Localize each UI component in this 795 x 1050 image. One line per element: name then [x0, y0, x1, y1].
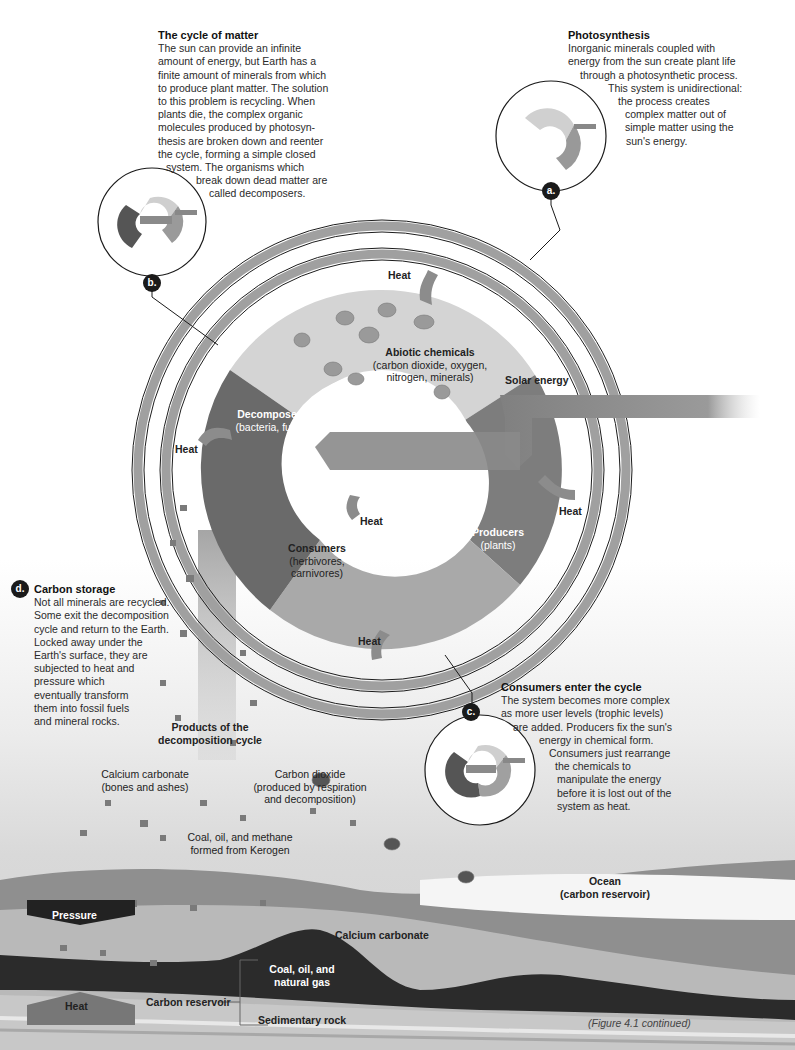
- label-line: Coal, oil, and: [269, 963, 334, 975]
- label-sub: (herbivores,: [289, 555, 344, 567]
- callout-line: finite amount of minerals from which: [158, 69, 358, 82]
- label-line: Coal, oil, and methane: [187, 831, 292, 843]
- label-sub: (plants): [480, 539, 515, 551]
- label-coal-oil-methane: Coal, oil, and methane formed from Kerog…: [175, 831, 305, 856]
- label-products-decomposition: Products of the decomposition cycle: [150, 721, 270, 746]
- label-decomposers: Decomposers (bacteria, fungi): [222, 408, 322, 433]
- label-line: decomposition cycle: [158, 734, 262, 746]
- badge-b: b.: [143, 274, 161, 292]
- callout-title: Photosynthesis: [568, 29, 778, 42]
- label-title: Consumers: [288, 542, 346, 554]
- label-line: Products of the: [171, 721, 248, 733]
- label-line: (bones and ashes): [102, 781, 189, 793]
- callout-title: Consumers enter the cycle: [501, 681, 701, 694]
- label-heat-right: Heat: [559, 505, 582, 518]
- label-solar-energy: Solar energy: [505, 374, 595, 387]
- label-line: natural gas: [274, 976, 330, 988]
- label-ocean: Ocean (carbon reservoir): [545, 875, 665, 900]
- callout-line: Locked away under the: [34, 636, 214, 649]
- callout-line: Earth's surface, they are: [34, 649, 214, 662]
- label-sub: (carbon dioxide, oxygen,: [373, 359, 487, 371]
- callout-line: Not all minerals are recycled.: [34, 596, 214, 609]
- callout-line: subjected to heat and: [34, 662, 214, 675]
- label-line: (carbon reservoir): [560, 888, 650, 900]
- label-calcium-carbonate-layer: Calcium carbonate: [335, 929, 429, 942]
- callout-line: The system becomes more complex: [501, 694, 701, 707]
- callout-line: break down dead matter are: [158, 174, 358, 187]
- label-title: Abiotic chemicals: [385, 346, 474, 358]
- label-heat-left: Heat: [175, 443, 198, 456]
- label-sub: nitrogen, minerals): [387, 371, 474, 383]
- callout-line: the chemicals to: [501, 760, 701, 773]
- callout-line: Some exit the decomposition: [34, 609, 214, 622]
- callout-line: before it is lost out of the: [501, 787, 701, 800]
- label-line: Carbon dioxide: [275, 768, 346, 780]
- label-sub: (bacteria, fungi): [236, 421, 309, 433]
- callout-consumers-enter: Consumers enter the cycle The system bec…: [501, 681, 701, 813]
- callout-line: complex matter out of: [568, 108, 778, 121]
- callout-line: called decomposers.: [158, 187, 358, 200]
- label-line: and decomposition): [264, 793, 356, 805]
- label-consumers: Consumers (herbivores, carnivores): [282, 542, 352, 580]
- callout-line: to this problem is recycling. When: [158, 95, 358, 108]
- callout-carbon-storage: Carbon storage Not all minerals are recy…: [34, 583, 214, 728]
- label-title: Producers: [472, 526, 524, 538]
- energy-arrow: [315, 432, 520, 470]
- label-heat-center: Heat: [360, 515, 383, 528]
- callout-line: pressure which: [34, 675, 214, 688]
- label-sub: carnivores): [291, 567, 343, 579]
- callout-line: cycle and return to the Earth.: [34, 623, 214, 636]
- callout-line: energy in chemical form.: [501, 734, 701, 747]
- label-heat-bottom: Heat: [358, 635, 381, 648]
- label-heat-ground: Heat: [65, 1000, 88, 1013]
- label-line: Ocean: [589, 875, 621, 887]
- label-line: (produced by respiration: [253, 781, 366, 793]
- callout-line: are added. Producers fix the sun's: [501, 721, 701, 734]
- callout-line: as more user levels (trophic levels): [501, 707, 701, 720]
- label-abiotic-chemicals: Abiotic chemicals (carbon dioxide, oxyge…: [365, 346, 495, 384]
- badge-a: a.: [542, 182, 560, 200]
- label-title: Decomposers: [237, 408, 306, 420]
- callout-line: to produce plant matter. The solution: [158, 82, 358, 95]
- label-sedimentary-rock: Sedimentary rock: [258, 1014, 346, 1027]
- label-line: Calcium carbonate: [101, 768, 189, 780]
- callout-line: molecules produced by photosyn-: [158, 121, 358, 134]
- label-line: formed from Kerogen: [190, 844, 289, 856]
- callout-title: The cycle of matter: [158, 29, 358, 42]
- callout-cycle-of-matter: The cycle of matter The sun can provide …: [158, 29, 358, 201]
- callout-line: the cycle, forming a simple closed: [158, 148, 358, 161]
- label-coal-oil-gas: Coal, oil, and natural gas: [262, 963, 342, 988]
- callout-line: system. The organisms which: [158, 161, 358, 174]
- callout-line: simple matter using the: [568, 121, 778, 134]
- callout-line: manipulate the energy: [501, 773, 701, 786]
- callout-line: them into fossil fuels: [34, 702, 214, 715]
- label-carbon-reservoir: Carbon reservoir: [146, 996, 231, 1009]
- callout-line: system as heat.: [501, 800, 701, 813]
- badge-c: c.: [462, 703, 480, 721]
- callout-line: the process creates: [568, 95, 778, 108]
- cycle-diagram-graphic: [0, 0, 795, 1050]
- label-producers: Producers (plants): [458, 526, 538, 551]
- label-heat-top: Heat: [388, 269, 411, 282]
- callout-line: The sun can provide an infinite: [158, 42, 358, 55]
- callout-line: Consumers just rearrange: [501, 747, 701, 760]
- callout-line: sun's energy.: [568, 135, 778, 148]
- callout-line: eventually transform: [34, 689, 214, 702]
- callout-line: thesis are broken down and reenter: [158, 135, 358, 148]
- callout-line: energy from the sun create plant life: [568, 55, 778, 68]
- badge-d: d.: [11, 580, 29, 598]
- callout-line: Inorganic minerals coupled with: [568, 42, 778, 55]
- label-carbon-dioxide: Carbon dioxide (produced by respiration …: [245, 768, 375, 806]
- callout-line: amount of energy, but Earth has a: [158, 55, 358, 68]
- label-calcium-carbonate-bones: Calcium carbonate (bones and ashes): [90, 768, 200, 793]
- figure-caption: (Figure 4.1 continued): [588, 1017, 691, 1029]
- callout-line: plants die, the complex organic: [158, 108, 358, 121]
- callout-line: This system is unidirectional:: [568, 82, 778, 95]
- label-pressure: Pressure: [52, 909, 97, 922]
- callout-title: Carbon storage: [34, 583, 214, 596]
- callout-photosynthesis: Photosynthesis Inorganic minerals couple…: [568, 29, 778, 148]
- callout-line: through a photosynthetic process.: [568, 69, 778, 82]
